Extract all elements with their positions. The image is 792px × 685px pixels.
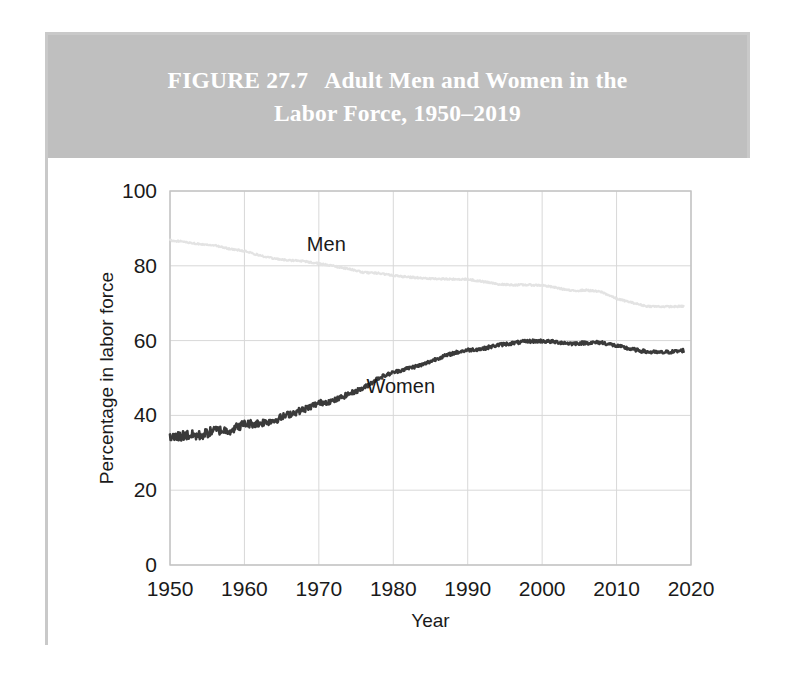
- x-axis-title: Year: [411, 610, 450, 631]
- figure-title: FIGURE 27.7Adult Men and Women in the La…: [76, 64, 719, 130]
- x-tick-label: 1960: [221, 577, 268, 600]
- x-tick-label: 2020: [668, 577, 715, 600]
- x-tick-label: 2000: [519, 577, 566, 600]
- line-chart: 020406080100 195019601970198019902000201…: [48, 158, 753, 645]
- x-tick-label: 1970: [295, 577, 342, 600]
- y-tick-label: 80: [134, 254, 157, 277]
- figure-title-line2: Labor Force, 1950–2019: [274, 100, 521, 126]
- y-tick-label: 40: [134, 403, 157, 426]
- y-tick-labels: 020406080100: [122, 179, 157, 576]
- figure-container: FIGURE 27.7Adult Men and Women in the La…: [45, 32, 750, 645]
- figure-number: FIGURE 27.7: [168, 67, 309, 93]
- series-label-men: Men: [307, 233, 346, 255]
- x-tick-label: 1990: [444, 577, 491, 600]
- y-tick-label: 60: [134, 329, 157, 352]
- x-tick-label: 1950: [147, 577, 194, 600]
- chart-plot-area: 020406080100 195019601970198019902000201…: [48, 158, 753, 645]
- y-tick-label: 20: [134, 478, 157, 501]
- y-axis-title: Percentage in labor force: [96, 272, 117, 484]
- figure-title-line1: Adult Men and Women in the: [324, 67, 627, 93]
- x-tick-labels: 19501960197019801990200020102020: [147, 577, 715, 600]
- figure-title-banner: FIGURE 27.7Adult Men and Women in the La…: [48, 35, 747, 158]
- series-annotations: MenWomen: [307, 233, 435, 397]
- series-label-women: Women: [366, 375, 435, 397]
- x-tick-label: 2010: [593, 577, 640, 600]
- y-tick-label: 0: [145, 553, 157, 576]
- x-tick-label: 1980: [370, 577, 417, 600]
- y-tick-label: 100: [122, 179, 157, 202]
